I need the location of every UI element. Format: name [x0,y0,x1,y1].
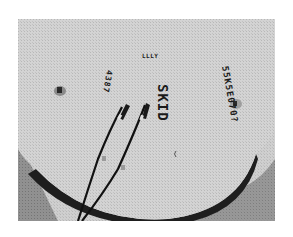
label-top-mark: LLLY [142,52,158,59]
bolt-left-head-icon [57,87,62,93]
splice-right [121,165,125,170]
document-page: LLLY 4387 SKID 55K5E070? [0,0,293,237]
specimen-photo: LLLY 4387 SKID 55K5E070? [18,19,275,221]
splice-left [102,156,106,161]
label-skid: SKID [155,84,171,122]
figure-caption [40,224,260,232]
